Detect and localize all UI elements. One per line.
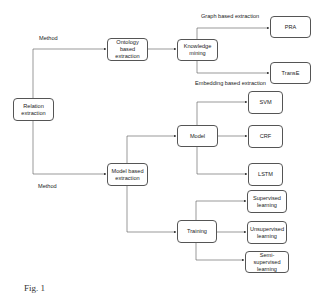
node-svm: SVM — [248, 91, 283, 114]
node-label: SVM — [259, 99, 271, 106]
node-label: Unsupervised learning — [249, 226, 285, 240]
node-label: Model — [190, 133, 205, 140]
node-label: LSTM — [258, 171, 273, 178]
edge-label-method-bottom: Method — [38, 183, 57, 190]
edge-label-graph-based: Graph based extraction — [201, 13, 259, 20]
node-label: CRF — [260, 133, 272, 140]
node-label: TransE — [282, 70, 300, 77]
node-transe: TransE — [270, 62, 311, 84]
node-label: Model based extraction — [109, 168, 146, 182]
node-label: PRA — [285, 24, 297, 31]
node-label: Semi-supervised learning — [247, 252, 287, 273]
node-ontology-based-extraction: Ontology based extraction — [107, 38, 148, 61]
node-semi-supervised-learning: Semi-supervised learning — [245, 251, 289, 273]
edge-label-embedding-based: Embedding based extraction — [195, 80, 266, 87]
node-training: Training — [177, 220, 217, 243]
node-label: Training — [187, 228, 207, 235]
node-model-based-extraction: Model based extraction — [107, 163, 148, 186]
node-label: Knowledge mining — [179, 43, 216, 57]
node-relation-extraction: Relation extraction — [13, 98, 54, 121]
node-label: Ontology based extraction — [109, 39, 146, 60]
edge-label-method-top: Method — [39, 35, 58, 42]
node-crf: CRF — [248, 125, 283, 148]
node-lstm: LSTM — [248, 163, 283, 186]
figure-caption: Fig. 1 — [24, 283, 45, 293]
node-label: Relation extraction — [15, 103, 52, 117]
node-model: Model — [177, 125, 218, 147]
node-supervised-learning: Supervised learning — [247, 190, 287, 213]
node-pra: PRA — [270, 16, 311, 38]
node-unsupervised-learning: Unsupervised learning — [247, 221, 287, 244]
node-label: Supervised learning — [249, 195, 285, 209]
node-knowledge-mining: Knowledge mining — [177, 39, 218, 61]
